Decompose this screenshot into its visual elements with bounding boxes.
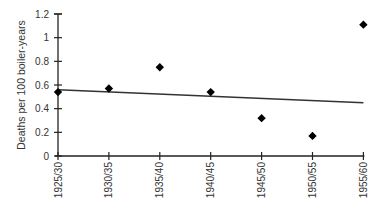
x-tick-label: 1925/30: [53, 162, 64, 199]
x-tick-label: 1935/40: [154, 162, 165, 199]
data-point: [156, 63, 164, 71]
y-tick-label: 0.6: [35, 80, 49, 91]
y-tick-label: 0.4: [35, 103, 49, 114]
data-point: [257, 114, 265, 122]
y-tick-label: 0: [43, 151, 49, 162]
y-tick-label: 0.2: [35, 127, 49, 138]
data-point: [54, 88, 62, 96]
data-point: [359, 20, 367, 28]
y-tick-label: 0.8: [35, 56, 49, 67]
x-tick-label: 1930/35: [103, 162, 114, 199]
y-tick-label: 1: [43, 32, 49, 43]
y-axis-title: Deaths per 100 boiler-years: [15, 20, 27, 150]
x-tick-label: 1940/45: [205, 162, 216, 199]
data-points: [54, 20, 368, 140]
x-tick-label: 1950/55: [307, 162, 318, 199]
chart: 00.20.40.60.811.2 1925/301930/351935/401…: [0, 0, 385, 214]
x-tick-label: 1945/50: [256, 162, 267, 199]
data-point: [207, 88, 215, 96]
x-tick-label: 1955/60: [358, 162, 369, 199]
x-axis-ticks: 1925/301930/351935/401940/451945/501950/…: [53, 152, 369, 198]
y-tick-label: 1.2: [35, 9, 49, 20]
data-point: [308, 132, 316, 140]
